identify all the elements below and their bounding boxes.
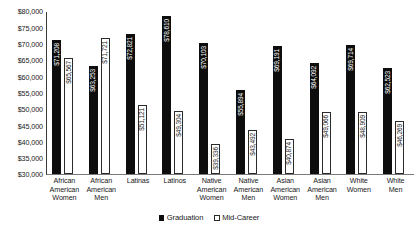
bar-mid-career[interactable]: $46,269 [395, 121, 404, 174]
x-axis-category-label: AfricanAmericanWomen [46, 177, 83, 203]
bar-value-label: $70,103 [200, 46, 207, 69]
bar-value-label: $69,714 [348, 48, 355, 71]
x-axis-category-label: AsianAmericanMen [304, 177, 341, 203]
x-axis-category-line: Women [340, 186, 377, 195]
y-axis-tick-label: $60,000 [18, 74, 43, 81]
bar-group: $63,253$71,721 [84, 12, 121, 174]
x-axis: AfricanAmericanWomenAfricanAmericanMenLa… [46, 177, 414, 211]
bar-graduation[interactable]: $72,821 [126, 34, 135, 174]
bars-layer: $71,208$65,567$63,253$71,721$72,821$51,1… [47, 12, 414, 174]
y-axis-tick-label: $70,000 [18, 41, 43, 48]
legend-item[interactable]: Mid-Career [214, 214, 259, 222]
x-axis-category-label: Latinos [156, 177, 193, 186]
y-axis-tick-label: $30,000 [18, 171, 43, 178]
bar-value-label: $48,909 [360, 115, 367, 138]
chart-legend: GraduationMid-Career [0, 214, 418, 222]
x-axis-category-line: Women [193, 194, 230, 203]
legend-item[interactable]: Graduation [159, 214, 204, 222]
x-axis-category-label: WhiteWomen [340, 177, 377, 194]
bar-value-label: $46,269 [396, 124, 403, 147]
bar-group: $78,610$49,304 [157, 12, 194, 174]
x-axis-category-label: Latinas [120, 177, 157, 186]
legend-label: Graduation [167, 214, 204, 222]
bar-mid-career[interactable]: $39,336 [211, 144, 220, 174]
bar-value-label: $71,721 [102, 41, 109, 64]
bar-value-label: $49,304 [176, 114, 183, 137]
bar-mid-career[interactable]: $51,121 [138, 105, 147, 174]
bar-graduation[interactable]: $69,191 [273, 46, 282, 174]
x-axis-category-label: WhiteMen [377, 177, 414, 194]
x-axis-category-line: Women [46, 194, 83, 203]
x-axis-category-label: NativeAmericanMen [230, 177, 267, 203]
y-axis-tick-label: $40,000 [18, 139, 43, 146]
y-axis: $80,000$75,000$70,000$65,000$60,000$55,0… [0, 0, 46, 186]
bar-value-label: $39,336 [212, 147, 219, 170]
x-axis-category-line: Men [83, 194, 120, 203]
bar-graduation[interactable]: $78,610 [162, 16, 171, 174]
bar-value-label: $72,821 [127, 37, 134, 60]
bar-value-label: $43,492 [249, 133, 256, 156]
bar-mid-career[interactable]: $65,567 [64, 58, 73, 174]
bar-value-label: $55,894 [237, 93, 244, 116]
bar-value-label: $71,208 [53, 43, 60, 66]
bar-group: $62,523$46,269 [378, 12, 415, 174]
y-axis-tick-label: $65,000 [18, 57, 43, 64]
y-axis-tick-label: $75,000 [18, 25, 43, 32]
bar-value-label: $69,191 [274, 49, 281, 72]
bar-group: $71,208$65,567 [47, 12, 84, 174]
x-axis-category-label: NativeAmericanWomen [193, 177, 230, 203]
bar-group: $55,894$43,492 [231, 12, 268, 174]
bar-value-label: $64,092 [311, 66, 318, 89]
bar-group: $70,103$39,336 [194, 12, 231, 174]
bar-group: $69,714$48,909 [341, 12, 378, 174]
x-axis-category-line: Men [230, 194, 267, 203]
bar-value-label: $63,253 [90, 69, 97, 92]
x-axis-category-line: Men [377, 186, 414, 195]
legend-swatch-graduation-icon [159, 215, 165, 221]
bar-graduation[interactable]: $70,103 [199, 43, 208, 174]
bar-graduation[interactable]: $69,714 [346, 45, 355, 174]
bar-mid-career[interactable]: $48,909 [358, 112, 367, 174]
y-axis-tick-label: $50,000 [18, 106, 43, 113]
bar-mid-career[interactable]: $71,721 [101, 38, 110, 174]
bar-graduation[interactable]: $64,092 [310, 63, 319, 174]
bar-mid-career[interactable]: $49,066 [322, 112, 331, 174]
bar-group: $72,821$51,121 [121, 12, 158, 174]
y-axis-tick-label: $35,000 [18, 155, 43, 162]
bar-group: $69,191$40,874 [268, 12, 305, 174]
bar-value-label: $40,874 [286, 142, 293, 165]
x-axis-category-line: Men [304, 194, 341, 203]
bar-value-label: $62,523 [384, 71, 391, 94]
x-axis-category-label: AsianAmericanWomen [267, 177, 304, 203]
bar-value-label: $65,567 [65, 61, 72, 84]
bar-value-label: $49,066 [323, 115, 330, 138]
x-axis-category-line: Latinas [120, 177, 157, 186]
bar-value-label: $78,610 [164, 19, 171, 42]
plot-area: $71,208$65,567$63,253$71,721$72,821$51,1… [46, 12, 414, 175]
bar-chart: $80,000$75,000$70,000$65,000$60,000$55,0… [0, 0, 418, 234]
x-axis-category-line: Latinos [156, 177, 193, 186]
legend-label: Mid-Career [222, 214, 259, 222]
bar-graduation[interactable]: $63,253 [89, 66, 98, 174]
y-axis-tick-label: $55,000 [18, 90, 43, 97]
legend-swatch-mid-career-icon [214, 215, 220, 221]
bar-value-label: $51,121 [139, 108, 146, 131]
bar-mid-career[interactable]: $49,304 [174, 111, 183, 174]
bar-graduation[interactable]: $55,894 [236, 90, 245, 174]
y-axis-tick-label: $45,000 [18, 123, 43, 130]
y-axis-tick-label: $80,000 [18, 8, 43, 15]
bar-graduation[interactable]: $71,208 [52, 40, 61, 174]
bar-mid-career[interactable]: $40,874 [285, 139, 294, 174]
x-axis-category-label: AfricanAmericanMen [83, 177, 120, 203]
bar-group: $64,092$49,066 [305, 12, 342, 174]
bar-graduation[interactable]: $62,523 [383, 68, 392, 174]
x-axis-category-line: Women [267, 194, 304, 203]
bar-mid-career[interactable]: $43,492 [248, 130, 257, 174]
